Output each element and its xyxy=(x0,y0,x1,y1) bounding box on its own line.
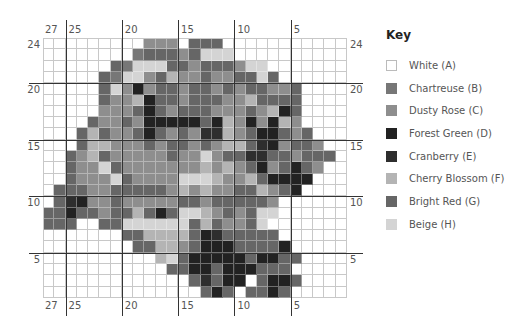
stitch-cell xyxy=(99,49,110,60)
stitch-cell xyxy=(212,95,223,106)
stitch-cell xyxy=(43,106,54,117)
stitch-cell xyxy=(66,38,77,49)
stitch-cell xyxy=(223,253,234,264)
stitch-cell xyxy=(43,241,54,252)
stitch-cell xyxy=(88,219,99,230)
stitch-cell xyxy=(178,208,189,219)
stitch-cell xyxy=(122,83,133,94)
legend-item-c: Dusty Rose (C) xyxy=(386,99,504,122)
stitch-cell xyxy=(178,106,189,117)
stitch-cell xyxy=(54,275,65,286)
row-label-right: 10 xyxy=(350,198,363,208)
stitch-cell xyxy=(43,38,54,49)
stitch-cell xyxy=(302,275,313,286)
stitch-cell xyxy=(156,162,167,173)
stitch-cell xyxy=(302,196,313,207)
stitch-cell xyxy=(178,196,189,207)
stitch-cell xyxy=(156,185,167,196)
stitch-cell xyxy=(313,151,324,162)
stitch-cell xyxy=(268,38,279,49)
stitch-cell xyxy=(257,72,268,83)
stitch-cell xyxy=(324,162,335,173)
stitch-cell xyxy=(291,230,302,241)
color-swatch-icon xyxy=(386,196,397,207)
stitch-cell xyxy=(246,49,257,60)
stitch-cell xyxy=(234,162,245,173)
stitch-cell xyxy=(111,196,122,207)
stitch-cell xyxy=(133,83,144,94)
stitch-cell xyxy=(178,230,189,241)
grid-major-line xyxy=(29,140,363,141)
stitch-cell xyxy=(133,38,144,49)
stitch-cell xyxy=(234,49,245,60)
stitch-cell xyxy=(189,95,200,106)
stitch-cell xyxy=(302,185,313,196)
stitch-cell xyxy=(257,253,268,264)
stitch-cell xyxy=(268,185,279,196)
stitch-cell xyxy=(88,230,99,241)
stitch-cell xyxy=(122,264,133,275)
legend-label: Dusty Rose (C) xyxy=(409,105,483,116)
stitch-cell xyxy=(77,83,88,94)
stitch-cell xyxy=(189,83,200,94)
legend-item-d: Forest Green (D) xyxy=(386,122,504,145)
stitch-cell xyxy=(178,38,189,49)
stitch-cell xyxy=(257,38,268,49)
stitch-cell xyxy=(43,95,54,106)
stitch-cell xyxy=(99,128,110,139)
stitch-cell xyxy=(268,287,279,298)
stitch-cell xyxy=(279,140,290,151)
stitch-cell xyxy=(156,38,167,49)
stitch-cell xyxy=(111,162,122,173)
stitch-cell xyxy=(178,264,189,275)
stitch-cell xyxy=(156,287,167,298)
stitch-cell xyxy=(291,72,302,83)
stitch-cell xyxy=(88,151,99,162)
stitch-cell xyxy=(336,95,347,106)
stitch-cell xyxy=(291,106,302,117)
stitch-cell xyxy=(336,241,347,252)
stitch-cell xyxy=(88,287,99,298)
stitch-cell xyxy=(88,128,99,139)
stitch-cell xyxy=(144,151,155,162)
stitch-cell xyxy=(122,162,133,173)
stitch-cell xyxy=(167,241,178,252)
stitch-cell xyxy=(144,72,155,83)
stitch-cell xyxy=(144,196,155,207)
stitch-cell xyxy=(313,140,324,151)
stitch-cell xyxy=(111,95,122,106)
stitch-cell xyxy=(268,162,279,173)
stitch-cell xyxy=(178,117,189,128)
stitch-cell xyxy=(257,196,268,207)
legend-title: Key xyxy=(386,28,504,42)
stitch-cell xyxy=(54,95,65,106)
stitch-cell xyxy=(77,49,88,60)
stitch-cell xyxy=(324,140,335,151)
stitch-cell xyxy=(54,72,65,83)
stitch-cell xyxy=(257,174,268,185)
stitch-cell xyxy=(43,253,54,264)
stitch-cell xyxy=(212,49,223,60)
stitch-cell xyxy=(246,95,257,106)
stitch-cell xyxy=(336,162,347,173)
stitch-cell xyxy=(279,117,290,128)
stitch-cell xyxy=(189,140,200,151)
stitch-cell xyxy=(246,196,257,207)
column-label: 5 xyxy=(294,25,300,35)
stitch-cell xyxy=(54,208,65,219)
stitch-cell xyxy=(77,174,88,185)
stitch-cell xyxy=(77,185,88,196)
stitch-cell xyxy=(167,208,178,219)
stitch-cell xyxy=(313,117,324,128)
stitch-cell xyxy=(302,49,313,60)
stitch-cell xyxy=(212,61,223,72)
stitch-cell xyxy=(111,72,122,83)
stitch-cell xyxy=(212,128,223,139)
stitch-cell xyxy=(144,106,155,117)
stitch-cell xyxy=(99,196,110,207)
stitch-cell xyxy=(77,208,88,219)
stitch-cell xyxy=(257,264,268,275)
legend-item-h: Beige (H) xyxy=(386,213,504,236)
stitch-cell xyxy=(167,196,178,207)
stitch-cell xyxy=(313,95,324,106)
